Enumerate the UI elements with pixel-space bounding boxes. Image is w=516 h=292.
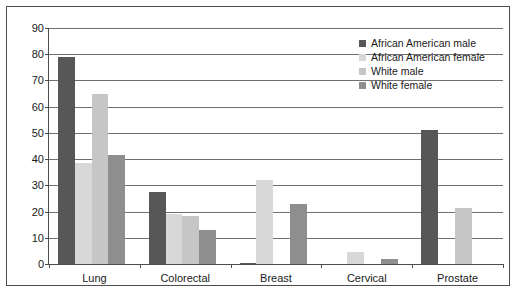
y-axis-tick-label: 40 xyxy=(32,154,44,165)
x-axis-tick-label: Colorectal xyxy=(140,273,231,284)
bar xyxy=(58,57,75,264)
bar-group: Lung xyxy=(49,28,140,264)
y-axis-tick-label: 90 xyxy=(32,23,44,34)
x-axis-tick-mark xyxy=(412,264,413,268)
legend-swatch-icon xyxy=(359,82,366,89)
legend-item: African American male xyxy=(359,37,485,50)
x-axis-tick-mark xyxy=(140,264,141,268)
bar xyxy=(455,208,472,264)
legend-swatch-icon xyxy=(359,54,366,61)
x-axis-tick-mark xyxy=(231,264,232,268)
legend-item: African American female xyxy=(359,51,485,64)
x-axis-tick-label: Lung xyxy=(49,273,140,284)
x-axis-tick-mark xyxy=(503,264,504,268)
bar xyxy=(75,163,92,264)
y-axis-tick-label: 10 xyxy=(32,232,44,243)
y-axis-tick-label: 0 xyxy=(38,259,44,270)
legend-swatch-icon xyxy=(359,40,366,47)
y-axis-tick-label: 30 xyxy=(32,180,44,191)
chart-frame: 0102030405060708090 LungColorectalBreast… xyxy=(6,6,510,286)
bar-group: Breast xyxy=(231,28,322,264)
bar xyxy=(381,259,398,264)
bar-group-bars xyxy=(149,28,216,264)
chart-legend: African American maleAfrican American fe… xyxy=(359,37,485,92)
bar xyxy=(92,94,109,264)
bar xyxy=(149,192,166,264)
bar xyxy=(256,180,273,264)
legend-item-label: African American female xyxy=(371,52,485,63)
bar xyxy=(166,214,183,264)
y-axis-tick-label: 80 xyxy=(32,49,44,60)
x-axis-tick-label: Breast xyxy=(231,273,322,284)
bar xyxy=(182,216,199,265)
legend-item-label: White female xyxy=(371,80,432,91)
bar xyxy=(240,263,257,264)
legend-item: White female xyxy=(359,79,485,92)
y-axis-tick-label: 20 xyxy=(32,206,44,217)
x-axis-tick-mark xyxy=(49,264,50,268)
legend-swatch-icon xyxy=(359,68,366,75)
bar-group-bars xyxy=(58,28,125,264)
x-axis-tick-label: Cervical xyxy=(321,273,412,284)
y-axis-tick-label: 60 xyxy=(32,101,44,112)
bar xyxy=(421,130,438,264)
y-axis-tick-label: 50 xyxy=(32,127,44,138)
bar-chart: 0102030405060708090 LungColorectalBreast… xyxy=(0,0,516,292)
bar xyxy=(108,155,125,264)
x-axis-tick-mark xyxy=(321,264,322,268)
bar xyxy=(290,204,307,264)
y-axis-tick-label: 70 xyxy=(32,75,44,86)
legend-item-label: White male xyxy=(371,66,424,77)
x-axis-tick-label: Prostate xyxy=(412,273,503,284)
bar xyxy=(199,230,216,264)
bar-group: Colorectal xyxy=(140,28,231,264)
legend-item-label: African American male xyxy=(371,38,476,49)
bar xyxy=(347,252,364,264)
bar-group-bars xyxy=(240,28,307,264)
legend-item: White male xyxy=(359,65,485,78)
